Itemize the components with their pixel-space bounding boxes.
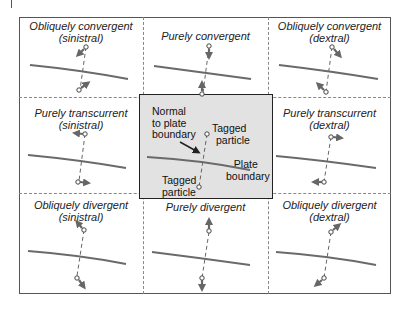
diagram-graphics [0,0,407,309]
plate-boundary-line [30,65,128,79]
normal-pointer-arrow [180,142,198,152]
